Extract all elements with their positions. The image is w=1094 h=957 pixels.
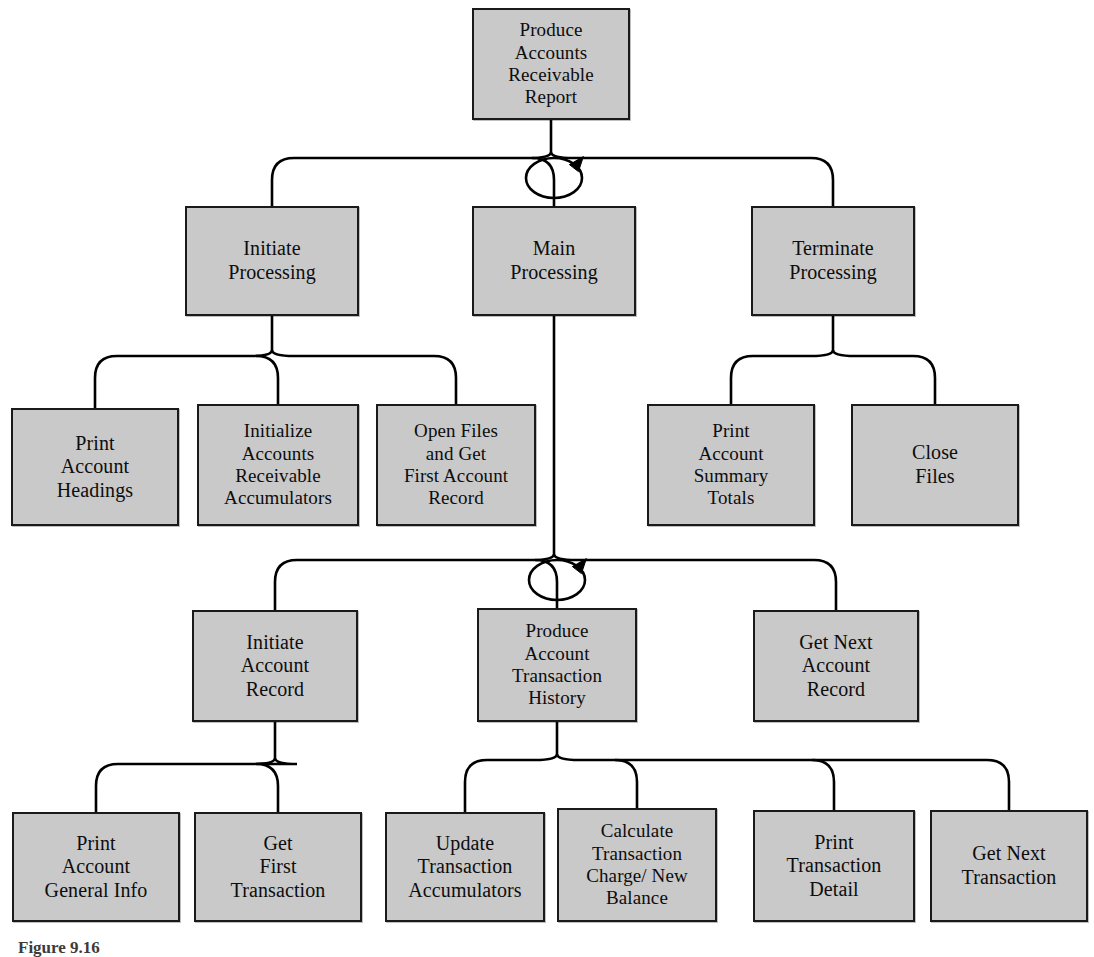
node-get-first-transaction[interactable]: Get First Transaction (194, 812, 362, 922)
node-print-account-general-info[interactable]: Print Account General Info (12, 812, 180, 922)
edge-left-branch-produce-accounts-receivable-report (272, 152, 551, 206)
node-label: Produce Accounts Receivable Report (504, 19, 597, 109)
node-produce-accounts-receivable-report[interactable]: Produce Accounts Receivable Report (472, 8, 630, 120)
edge-group-initiate-processing (95, 316, 456, 408)
node-label: Initiate Processing (224, 237, 320, 284)
node-label: Produce Account Transaction History (508, 620, 606, 710)
edge-left-branch-initiate-account-record (96, 758, 275, 812)
node-label: Open Files and Get First Account Record (400, 420, 512, 510)
edge-group-terminate-processing (731, 316, 935, 404)
node-label: Print Account General Info (41, 832, 152, 903)
node-label: Update Transaction Accumulators (404, 832, 525, 903)
node-calculate-transaction-charge-new-balance[interactable]: Calculate Transaction Charge/ New Balanc… (557, 808, 717, 922)
edge-left-branch-main-processing (275, 554, 554, 610)
node-label: Initialize Accounts Receivable Accumulat… (220, 420, 336, 510)
loop-ellipse-main-processing-loop (526, 158, 582, 198)
node-initiate-account-record[interactable]: Initiate Account Record (192, 610, 358, 722)
edge-right-branch-initiate-account-record (256, 758, 297, 812)
edge-mid-calculate-transaction-charge-new-balance (615, 760, 637, 808)
edge-right-branch-terminate-processing (833, 350, 935, 404)
edge-mid-main-processing (532, 158, 554, 206)
node-get-next-account-record[interactable]: Get Next Account Record (753, 610, 919, 722)
node-update-transaction-accumulators[interactable]: Update Transaction Accumulators (385, 812, 545, 922)
node-label: Terminate Processing (785, 237, 881, 284)
node-print-account-headings[interactable]: Print Account Headings (11, 408, 179, 526)
loop-ellipse-produce-account-transaction-history-loop (529, 560, 585, 600)
node-label: Print Account Summary Totals (690, 420, 773, 510)
loop-arrowhead-produce-account-transaction-history-loop (572, 559, 586, 574)
edge-left-branch-terminate-processing (731, 350, 833, 404)
node-terminate-processing[interactable]: Terminate Processing (751, 206, 915, 316)
edge-mid-initialize-accounts-receivable-accumulators (256, 356, 278, 404)
node-initialize-accounts-receivable-accumulators[interactable]: Initialize Accounts Receivable Accumulat… (197, 404, 359, 526)
node-label: Main Processing (506, 237, 602, 284)
edge-left-branch-produce-account-transaction-history (465, 754, 557, 812)
node-get-next-transaction[interactable]: Get Next Transaction (930, 810, 1088, 922)
node-open-files-and-get-first-account-record[interactable]: Open Files and Get First Account Record (376, 404, 536, 526)
edge-right-branch-produce-accounts-receivable-report (551, 152, 833, 206)
edge-group-produce-accounts-receivable-report (272, 120, 833, 206)
loop-arrowhead-main-processing-loop (569, 157, 583, 172)
node-label: Get Next Transaction (958, 842, 1061, 889)
node-label: Get First Transaction (227, 832, 330, 903)
node-label: Get Next Account Record (795, 631, 877, 702)
node-label: Calculate Transaction Charge/ New Balanc… (582, 820, 692, 910)
loop-main-processing-loop (526, 157, 583, 198)
node-label: Print Account Headings (53, 432, 137, 503)
edge-right-branch-initiate-processing (272, 350, 456, 404)
node-main-processing[interactable]: Main Processing (472, 206, 636, 316)
node-initiate-processing[interactable]: Initiate Processing (185, 206, 359, 316)
edge-right-branch-main-processing (554, 554, 836, 610)
structure-chart: Produce Accounts Receivable ReportInitia… (0, 0, 1094, 957)
node-label: Initiate Account Record (237, 631, 313, 702)
node-print-account-summary-totals[interactable]: Print Account Summary Totals (647, 404, 815, 526)
edge-left-branch-initiate-processing (95, 350, 272, 408)
edge-mid-produce-account-transaction-history (535, 560, 557, 608)
figure-caption: Figure 9.16 (18, 938, 100, 957)
node-produce-account-transaction-history[interactable]: Produce Account Transaction History (477, 608, 637, 722)
node-label: Close Files (908, 441, 962, 488)
node-label: Print Transaction Detail (783, 831, 886, 902)
node-print-transaction-detail[interactable]: Print Transaction Detail (753, 810, 915, 922)
edge-group-produce-account-transaction-history (465, 722, 1009, 812)
loop-produce-account-transaction-history-loop (529, 559, 586, 600)
node-close-files[interactable]: Close Files (851, 404, 1019, 526)
edge-mid-print-transaction-detail (812, 760, 834, 810)
edge-right-branch-produce-account-transaction-history (557, 754, 1009, 810)
edge-group-initiate-account-record (96, 722, 297, 812)
